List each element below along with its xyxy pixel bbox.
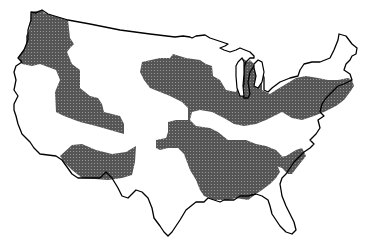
- lake-huron-erie: [254, 60, 264, 88]
- region-pacific-northwest: [18, 10, 124, 134]
- us-map: Contiguous United States shaded regions: [0, 0, 367, 247]
- region-northern-plains: [140, 54, 354, 200]
- shaded-regions: [18, 10, 354, 200]
- map-svg: [0, 0, 367, 247]
- region-southwest: [60, 144, 136, 180]
